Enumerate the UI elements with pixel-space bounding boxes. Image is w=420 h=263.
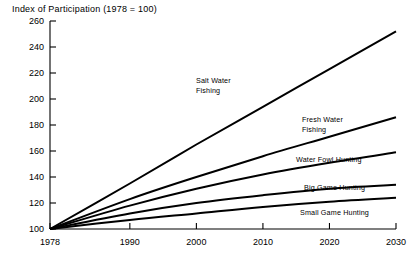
y-tick-label: 120 xyxy=(29,198,44,208)
y-tick-label: 200 xyxy=(29,94,44,104)
y-tick-label: 220 xyxy=(29,68,44,78)
x-tick-label: 1990 xyxy=(120,237,140,247)
y-tick-label: 180 xyxy=(29,120,44,130)
series-label-1: Salt Water xyxy=(196,76,231,85)
x-tick-label: 2030 xyxy=(386,237,406,247)
x-tick-label: 2020 xyxy=(319,237,339,247)
x-tick-label: 2000 xyxy=(186,237,206,247)
series-label-3: Water Fowl Hunting xyxy=(296,155,362,164)
chart-plot-area: 100120140160180200220240260 197819902000… xyxy=(0,0,420,263)
y-tick-label: 140 xyxy=(29,172,44,182)
y-tick-label: 100 xyxy=(29,224,44,234)
series-label-2-line2: Fishing xyxy=(302,125,326,134)
y-axis-ticks: 100120140160180200220240260 xyxy=(29,16,56,234)
series-label-2: Fresh Water xyxy=(302,115,343,124)
series-label-4: Big Game Hunting xyxy=(304,183,365,192)
y-tick-label: 260 xyxy=(29,16,44,26)
y-tick-label: 240 xyxy=(29,42,44,52)
series-label-5: Small Game Hunting xyxy=(300,208,369,217)
x-tick-label: 2010 xyxy=(253,237,273,247)
series-labels-group: Salt WaterFishingFresh WaterFishingWater… xyxy=(196,76,369,217)
y-tick-label: 160 xyxy=(29,146,44,156)
participation-index-chart: Index of Participation (1978 = 100) 1001… xyxy=(0,0,420,263)
series-lines-group xyxy=(50,31,396,229)
x-tick-label: 1978 xyxy=(40,237,60,247)
x-axis-ticks: 197819902000201020202030 xyxy=(40,223,406,247)
series-label-1-line2: Fishing xyxy=(196,86,220,95)
